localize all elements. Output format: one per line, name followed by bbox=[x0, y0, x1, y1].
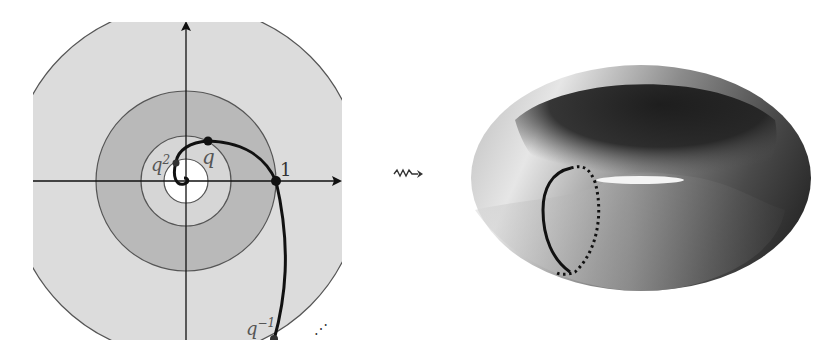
quotient-arrow bbox=[392, 163, 432, 183]
continuation-dots: ⋰ bbox=[314, 321, 328, 337]
squiggle-arrow-icon bbox=[392, 163, 432, 183]
torus-hole-highlight bbox=[596, 176, 684, 184]
point-q-squared bbox=[173, 160, 180, 167]
torus-diagram bbox=[455, 60, 815, 310]
torus-upper-shadow bbox=[515, 84, 777, 185]
label-one: 1 bbox=[280, 159, 291, 180]
torus-figure bbox=[455, 60, 815, 310]
complex-plane-figure: q q2 1 q−1 ⋰ bbox=[0, 0, 360, 363]
point-q-inverse bbox=[270, 335, 278, 343]
label-q: q bbox=[202, 145, 215, 169]
annulus-spiral-diagram: q q2 1 q−1 ⋰ bbox=[0, 0, 360, 363]
